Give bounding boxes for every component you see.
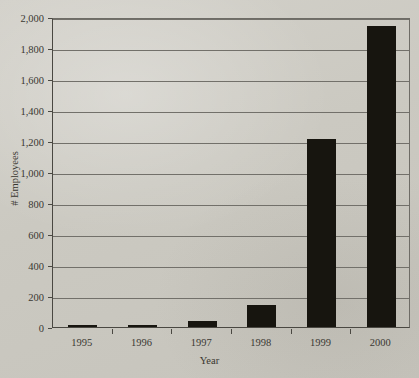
x-tick-mark bbox=[291, 329, 292, 334]
plot-area bbox=[52, 18, 410, 328]
gridline bbox=[53, 50, 409, 51]
gridline bbox=[53, 143, 409, 144]
gridline bbox=[53, 81, 409, 82]
y-tick-label: 800 bbox=[28, 199, 44, 210]
x-tick-label-1999: 1999 bbox=[310, 337, 331, 348]
y-tick-mark bbox=[48, 111, 52, 112]
gridline bbox=[53, 19, 409, 20]
y-tick-mark bbox=[48, 297, 52, 298]
gridline bbox=[53, 298, 409, 299]
y-tick-mark bbox=[48, 328, 52, 329]
y-axis-labels: 02004006008001,0001,2001,4001,6001,8002,… bbox=[0, 0, 48, 378]
y-tick-mark bbox=[48, 49, 52, 50]
bar-2000 bbox=[367, 26, 396, 327]
bar-1998 bbox=[247, 305, 276, 327]
y-tick-mark bbox=[48, 266, 52, 267]
gridline bbox=[53, 174, 409, 175]
y-tick-label: 0 bbox=[39, 323, 44, 334]
y-tick-label: 600 bbox=[28, 230, 44, 241]
x-tick-label-1998: 1998 bbox=[250, 337, 271, 348]
y-tick-mark bbox=[48, 235, 52, 236]
gridline bbox=[53, 267, 409, 268]
x-tick-label-2000: 2000 bbox=[370, 337, 391, 348]
x-tick-label-1996: 1996 bbox=[131, 337, 152, 348]
y-tick-label: 1,800 bbox=[20, 44, 44, 55]
y-axis-title: # Employees bbox=[9, 119, 20, 239]
y-tick-mark bbox=[48, 18, 52, 19]
y-tick-label: 400 bbox=[28, 261, 44, 272]
x-tick-mark bbox=[112, 329, 113, 334]
x-tick-label-1995: 1995 bbox=[71, 337, 92, 348]
y-tick-label: 2,000 bbox=[20, 13, 44, 24]
x-axis-title: Year bbox=[0, 355, 419, 366]
y-tick-mark bbox=[48, 142, 52, 143]
y-tick-label: 1,000 bbox=[20, 168, 44, 179]
y-tick-label: 1,600 bbox=[20, 75, 44, 86]
x-tick-mark bbox=[171, 329, 172, 334]
gridline bbox=[53, 205, 409, 206]
bar-1995 bbox=[68, 325, 97, 327]
bar-chart: 02004006008001,0001,2001,4001,6001,8002,… bbox=[0, 0, 419, 378]
y-tick-mark bbox=[48, 173, 52, 174]
gridline bbox=[53, 112, 409, 113]
y-tick-mark bbox=[48, 80, 52, 81]
y-tick-label: 1,200 bbox=[20, 137, 44, 148]
x-tick-mark bbox=[350, 329, 351, 334]
y-tick-mark bbox=[48, 204, 52, 205]
gridline bbox=[53, 236, 409, 237]
bar-1997 bbox=[188, 321, 217, 327]
y-tick-label: 200 bbox=[28, 292, 44, 303]
bar-1999 bbox=[307, 139, 336, 327]
x-tick-mark bbox=[231, 329, 232, 334]
y-tick-label: 1,400 bbox=[20, 106, 44, 117]
x-tick-label-1997: 1997 bbox=[191, 337, 212, 348]
bar-1996 bbox=[128, 325, 157, 327]
